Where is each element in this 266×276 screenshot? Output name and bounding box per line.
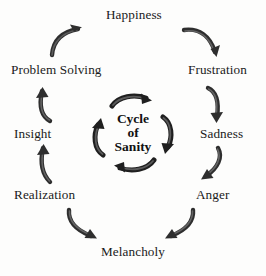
connector-arrow-problem-solving-to-happiness	[48, 22, 88, 58]
stage-label-anger: Anger	[196, 188, 229, 201]
stage-label-realization: Realization	[14, 188, 75, 201]
stage-label-melancholy: Melancholy	[101, 245, 165, 258]
hub-title-line-1: Cycle	[117, 112, 149, 126]
stage-label-insight: Insight	[14, 127, 51, 140]
connector-arrow-happiness-to-frustration	[182, 24, 224, 62]
connector-arrow-sadness-to-anger	[196, 145, 230, 185]
stage-label-problem-solving: Problem Solving	[11, 63, 102, 76]
cycle-of-sanity-diagram: Happiness Frustration Sadness Anger Mela…	[0, 0, 266, 276]
connector-arrow-melancholy-to-realization	[60, 207, 102, 243]
stage-label-happiness: Happiness	[106, 8, 162, 21]
stage-label-frustration: Frustration	[188, 63, 247, 76]
stage-label-sadness: Sadness	[200, 127, 243, 140]
hub-title: Cycle of Sanity	[86, 91, 180, 175]
hub-title-line-2: of	[127, 126, 138, 140]
connector-arrow-realization-to-insight	[30, 143, 62, 185]
connector-arrow-anger-to-melancholy	[160, 207, 202, 243]
connector-arrow-insight-to-problem-solving	[30, 86, 60, 126]
connector-arrow-frustration-to-sadness	[200, 86, 230, 126]
hub-title-line-3: Sanity	[115, 140, 152, 154]
cycle-hub: Cycle of Sanity	[86, 91, 180, 175]
